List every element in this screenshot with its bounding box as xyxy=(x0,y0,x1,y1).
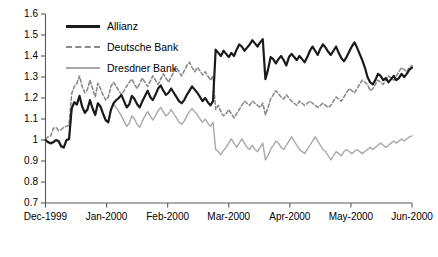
y-tick-label: 0.9 xyxy=(0,155,38,166)
y-tick-label: 1.4 xyxy=(0,50,38,61)
legend-swatch-deutsche-bank xyxy=(66,46,100,48)
legend-item-deutsche-bank: Deutsche Bank xyxy=(66,41,178,53)
y-tick-label: 0.8 xyxy=(0,176,38,187)
legend-item-dresdner-bank: Dresdner Bank xyxy=(66,62,177,74)
y-tick-label: 1.1 xyxy=(0,113,38,124)
y-tick-label: 1.2 xyxy=(0,92,38,103)
y-tick-label: 1 xyxy=(0,134,38,145)
legend-item-allianz: Allianz xyxy=(66,20,138,32)
x-tick-label: Jun-2000 xyxy=(373,211,438,222)
chart-series-group xyxy=(46,39,413,160)
y-tick-label: 1.6 xyxy=(0,8,38,19)
legend-swatch-allianz xyxy=(66,25,100,28)
y-tick-label: 1.5 xyxy=(0,29,38,40)
y-tick-label: 1.3 xyxy=(0,71,38,82)
legend-swatch-dresdner-bank xyxy=(66,67,100,69)
legend-label-dresdner-bank: Dresdner Bank xyxy=(107,62,177,74)
legend-label-deutsche-bank: Deutsche Bank xyxy=(107,41,178,53)
series-line-allianz xyxy=(46,39,413,147)
y-tick-label: 0.7 xyxy=(0,197,38,208)
legend-label-allianz: Allianz xyxy=(107,20,138,32)
